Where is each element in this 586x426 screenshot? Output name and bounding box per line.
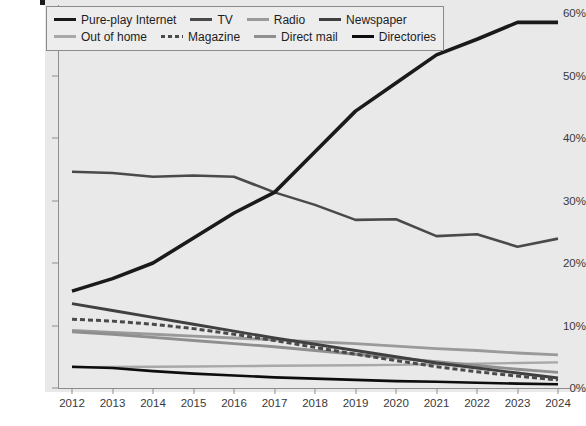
legend-item-newspaper[interactable]: Newspaper	[319, 13, 407, 27]
x-tick-label: 2018	[302, 397, 328, 409]
legend-label: Radio	[274, 13, 305, 27]
legend-label: Direct mail	[281, 30, 338, 44]
y-tick-label: 60%	[544, 7, 586, 19]
y-tick-label: 50%	[544, 70, 586, 82]
y-tick-label: 20%	[544, 257, 586, 269]
x-tick-label: 2016	[221, 397, 247, 409]
y-tick-label: 40%	[544, 132, 586, 144]
legend-label: Pure-play Internet	[81, 13, 176, 27]
chart-screenshot: 0%10%20%30%40%50%60% 2012201320142015201…	[0, 0, 586, 426]
x-tick-label: 2017	[262, 397, 288, 409]
legend-row-2: Out of homeMagazineDirect mailDirectorie…	[54, 28, 436, 45]
legend-swatch-icon	[247, 18, 269, 21]
legend-label: Out of home	[81, 30, 147, 44]
legend-label: Directories	[379, 30, 436, 44]
x-tick-label: 2014	[140, 397, 166, 409]
x-axis-line	[58, 388, 570, 389]
x-tick-label: 2024	[545, 397, 571, 409]
x-tick-label: 2013	[100, 397, 126, 409]
legend-label: Magazine	[188, 30, 240, 44]
x-tick-label: 2021	[424, 397, 450, 409]
legend-swatch-icon	[54, 35, 76, 38]
legend-item-out-of-home[interactable]: Out of home	[54, 30, 147, 44]
legend-swatch-icon	[319, 18, 341, 21]
y-axis-line	[58, 5, 59, 389]
legend-item-radio[interactable]: Radio	[247, 13, 305, 27]
legend-swatch-icon	[190, 18, 212, 21]
x-tick-label: 2020	[383, 397, 409, 409]
legend-row-1: Pure-play InternetTVRadioNewspaper	[54, 11, 436, 28]
legend-item-direct-mail[interactable]: Direct mail	[254, 30, 338, 44]
x-tick-label: 2022	[464, 397, 490, 409]
plot-area	[58, 5, 569, 388]
x-tick-label: 2019	[343, 397, 369, 409]
x-tick-label: 2012	[59, 397, 85, 409]
x-tick-label: 2023	[505, 397, 531, 409]
legend-item-magazine[interactable]: Magazine	[161, 30, 240, 44]
legend-swatch-icon	[352, 35, 374, 38]
legend-swatch-icon	[254, 35, 276, 38]
y-tick-label: 30%	[544, 195, 586, 207]
y-tick-label: 10%	[544, 320, 586, 332]
legend-label: Newspaper	[346, 13, 407, 27]
chart-legend: Pure-play InternetTVRadioNewspaper Out o…	[46, 6, 444, 51]
legend-item-tv[interactable]: TV	[190, 13, 232, 27]
legend-label: TV	[217, 13, 232, 27]
x-tick-label: 2015	[181, 397, 207, 409]
legend-swatch-icon	[54, 18, 76, 22]
legend-item-pure-play-internet[interactable]: Pure-play Internet	[54, 13, 176, 27]
legend-swatch-icon	[161, 35, 183, 38]
legend-item-directories[interactable]: Directories	[352, 30, 436, 44]
